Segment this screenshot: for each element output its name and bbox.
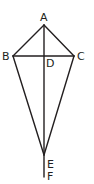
segment-ce	[44, 56, 74, 155]
kite-figure: A B C D E F	[0, 0, 94, 184]
segment-be	[13, 56, 44, 155]
label-f: F	[47, 170, 53, 183]
label-c: C	[77, 50, 85, 63]
kite-diagram: A B C D E F	[0, 0, 94, 184]
segment-ac	[44, 25, 74, 56]
label-d: D	[46, 57, 54, 70]
label-a: A	[40, 11, 48, 24]
segment-ab	[13, 25, 44, 56]
label-b: B	[2, 50, 10, 63]
